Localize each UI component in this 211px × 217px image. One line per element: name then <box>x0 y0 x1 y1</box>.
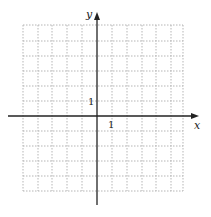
y-axis-label: y <box>85 8 93 21</box>
y-axis-arrow-icon <box>94 12 100 20</box>
x-axis <box>8 113 199 119</box>
x-axis-label: x <box>194 119 201 132</box>
y-unit-label: 1 <box>88 96 94 107</box>
coordinate-plane: y x 1 1 <box>0 0 211 217</box>
grid <box>23 25 183 191</box>
x-unit-label: 1 <box>108 119 114 130</box>
